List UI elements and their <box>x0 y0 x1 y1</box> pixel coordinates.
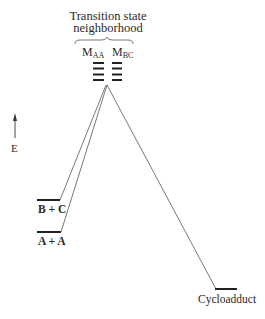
label-bc: B + C <box>38 203 66 215</box>
label-aa: A + A <box>38 235 66 247</box>
label-maa-main: M <box>82 45 93 59</box>
energy-arrow-icon <box>13 113 17 138</box>
path-ts-to-product <box>107 85 216 289</box>
energy-axis-label: E <box>11 142 18 154</box>
label-maa: MAA <box>82 45 104 60</box>
path-bc-to-ts <box>60 85 106 200</box>
label-mbc-main: M <box>112 45 123 59</box>
label-maa-sub: AA <box>93 51 105 60</box>
title-line-2: neighborhood <box>60 22 156 34</box>
path-aa-to-ts <box>61 85 107 232</box>
brace <box>75 37 133 44</box>
label-cycloadduct: Cycloadduct <box>198 293 256 305</box>
energy-diagram: Transition state neighborhood MAA MBC E … <box>0 0 265 319</box>
label-mbc: MBC <box>112 45 133 60</box>
ts-levels-mbc <box>112 63 122 80</box>
label-mbc-sub: BC <box>123 51 134 60</box>
ts-levels-maa <box>93 63 104 80</box>
